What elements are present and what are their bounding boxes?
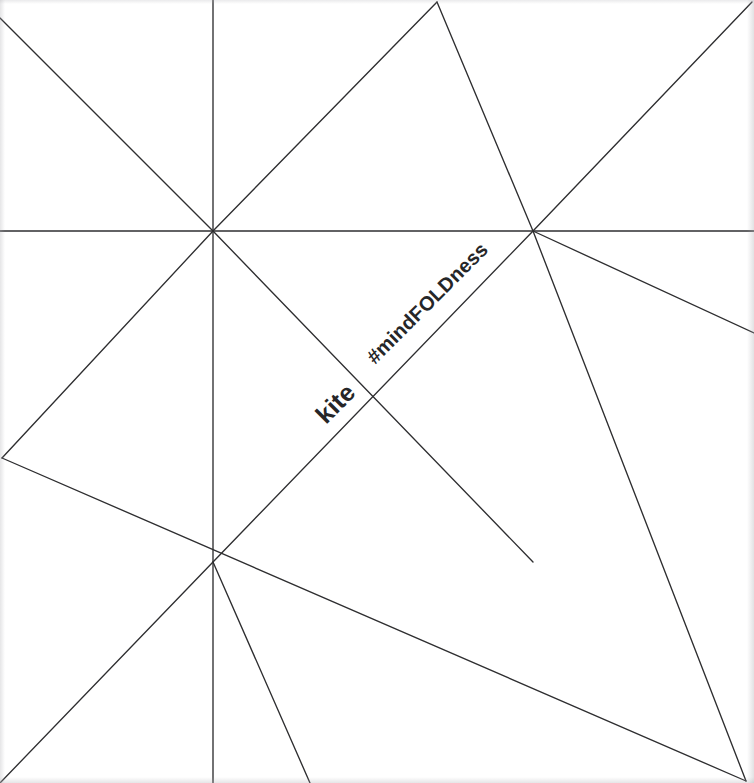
crease-star-diag-sw: [2, 231, 213, 458]
label-hashtag: #mindFOLDness: [362, 238, 492, 368]
crease-pattern-canvas: kite #mindFOLDness: [0, 0, 754, 783]
crease-star-diag-ne: [213, 2, 437, 231]
crease-lower-hub-to-corner-bl: [0, 562, 213, 783]
label-kite: kite: [310, 378, 361, 429]
crease-lower-hub-to-bottom: [213, 562, 310, 783]
crease-corner-tr-diagonal: [533, 2, 752, 231]
crease-top-node-to-right-hub: [437, 2, 533, 231]
crease-left-node-to-corner-br: [2, 458, 746, 781]
crease-star-diag-nw: [0, 18, 213, 231]
crease-pattern-svg: kite #mindFOLDness: [0, 0, 754, 783]
crease-right-hub-to-corner-br: [533, 231, 746, 781]
